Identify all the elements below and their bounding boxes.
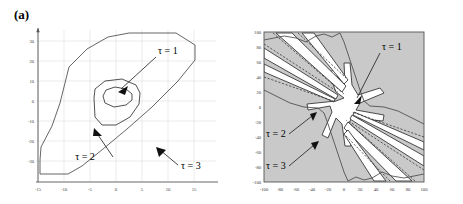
- svg-text:0: 0: [343, 187, 346, 192]
- svg-text:-40: -40: [309, 187, 316, 192]
- panel-b: (b): [232, 0, 463, 204]
- svg-text:60: 60: [390, 187, 395, 192]
- contour-tau-1: [103, 87, 132, 107]
- svg-text:0: 0: [32, 99, 35, 104]
- annotation-tau-3-label: τ = 3: [266, 160, 286, 171]
- annotation-tau-1-label: τ = 1: [158, 45, 178, 56]
- svg-text:100: 100: [254, 30, 262, 35]
- svg-text:-80: -80: [255, 165, 262, 170]
- svg-text:-80: -80: [277, 187, 284, 192]
- annotation-tau-1: τ = 1: [118, 45, 178, 95]
- svg-text:20: 20: [358, 187, 363, 192]
- svg-text:20: 20: [256, 90, 261, 95]
- svg-text:80: 80: [406, 187, 411, 192]
- panel-b-x-ticklabels: -100 -80 -60 -40 -20 0 20 40 60 80 100: [260, 187, 428, 192]
- panel-a-x-ticklabels: -15 -10 -5 0 5 10 15: [35, 187, 197, 192]
- panel-a-label: (a): [14, 7, 29, 23]
- svg-text:-20: -20: [325, 187, 332, 192]
- panel-b-plot: 100 80 60 40 20 0 -20 -40 -60 -80 -100 -…: [232, 0, 463, 204]
- svg-text:30: 30: [29, 39, 34, 44]
- svg-text:-60: -60: [255, 150, 262, 155]
- panel-b-y-ticklabels: 100 80 60 40 20 0 -20 -40 -60 -80 -100: [253, 30, 262, 185]
- panel-a-y-ticklabels: 30 20 10 0 -10 -20 -30: [28, 39, 35, 164]
- annotation-tau-2-label: τ = 2: [266, 128, 286, 139]
- svg-text:-40: -40: [255, 135, 262, 140]
- svg-text:-15: -15: [35, 187, 42, 192]
- panel-a-plot: 30 20 10 0 -10 -20 -30 -15 -10 -5 0 5 10…: [0, 0, 232, 204]
- svg-text:5: 5: [141, 187, 144, 192]
- svg-text:80: 80: [256, 45, 261, 50]
- svg-text:-20: -20: [255, 120, 262, 125]
- svg-text:-20: -20: [28, 139, 35, 144]
- svg-text:20: 20: [29, 59, 34, 64]
- annotation-tau-1-label: τ = 1: [382, 41, 402, 52]
- svg-text:-100: -100: [253, 180, 262, 185]
- svg-text:-30: -30: [28, 159, 35, 164]
- contour-tau-2: [94, 79, 140, 125]
- svg-text:0: 0: [259, 105, 262, 110]
- svg-text:10: 10: [29, 79, 34, 84]
- svg-text:60: 60: [256, 60, 261, 65]
- annotation-tau-2-label: τ = 2: [75, 151, 95, 162]
- svg-text:-5: -5: [88, 187, 93, 192]
- annotation-tau-3-label: τ = 3: [181, 160, 201, 171]
- svg-text:0: 0: [115, 187, 118, 192]
- svg-text:10: 10: [166, 187, 171, 192]
- svg-text:-10: -10: [28, 119, 35, 124]
- svg-text:40: 40: [374, 187, 379, 192]
- panel-a-axes: [36, 28, 218, 182]
- svg-text:-60: -60: [293, 187, 300, 192]
- svg-text:-10: -10: [61, 187, 68, 192]
- panel-a: (a): [0, 0, 232, 204]
- figure-container: (a): [0, 0, 463, 204]
- svg-text:15: 15: [192, 187, 197, 192]
- svg-text:40: 40: [256, 75, 261, 80]
- svg-text:100: 100: [421, 187, 429, 192]
- svg-text:-100: -100: [260, 187, 269, 192]
